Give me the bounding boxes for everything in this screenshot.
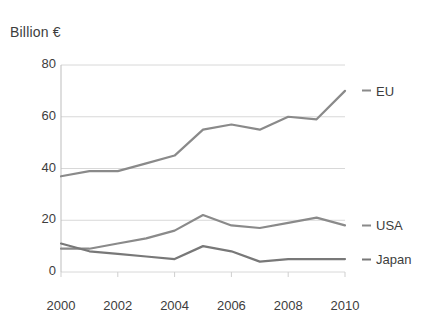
x-axis-tick-marks bbox=[61, 272, 345, 277]
legend-label: Japan bbox=[376, 252, 411, 267]
x-tick-label-2008: 2008 bbox=[274, 298, 303, 313]
x-tick-label-2010: 2010 bbox=[331, 298, 360, 313]
legend-line-icon bbox=[362, 90, 371, 92]
y-tick-label-60: 60 bbox=[22, 108, 56, 123]
line-chart: Billion € 020406080 20002002200420062008… bbox=[0, 0, 440, 331]
chart-legend: EUUSAJapan bbox=[362, 0, 440, 331]
y-tick-label-80: 80 bbox=[22, 56, 56, 71]
y-tick-label-40: 40 bbox=[22, 160, 56, 175]
y-tick-label-0: 0 bbox=[22, 263, 56, 278]
gridlines bbox=[61, 65, 345, 272]
y-tick-label-20: 20 bbox=[22, 211, 56, 226]
x-tick-label-2000: 2000 bbox=[47, 298, 76, 313]
legend-item-eu[interactable]: EU bbox=[362, 83, 394, 98]
x-tick-label-2006: 2006 bbox=[217, 298, 246, 313]
legend-line-icon bbox=[362, 258, 371, 260]
legend-item-japan[interactable]: Japan bbox=[362, 252, 411, 267]
x-tick-label-2002: 2002 bbox=[103, 298, 132, 313]
series-line-eu bbox=[61, 91, 345, 176]
legend-label: EU bbox=[376, 83, 394, 98]
x-tick-label-2004: 2004 bbox=[160, 298, 189, 313]
legend-line-icon bbox=[362, 224, 371, 226]
legend-item-usa[interactable]: USA bbox=[362, 218, 403, 233]
legend-label: USA bbox=[376, 218, 403, 233]
y-axis-tick-labels: 020406080 bbox=[16, 0, 56, 331]
